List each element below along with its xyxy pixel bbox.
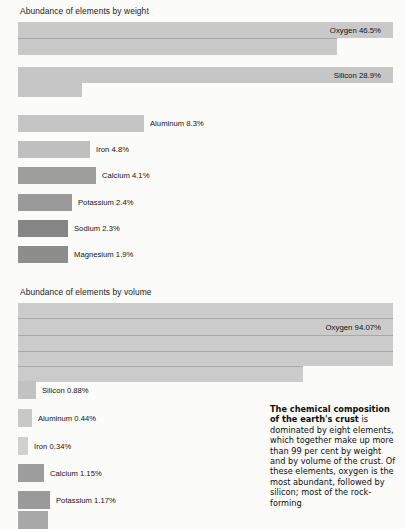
volume-bar-oxygen-row-1: Oxygen 94.07%	[18, 318, 393, 335]
weight-bar-calcium[interactable]: Calcium 4.1%	[18, 167, 149, 184]
volume-bar-calcium-label: Calcium 1.15%	[50, 469, 102, 478]
volume-bar-oxygen-row-2	[18, 335, 393, 351]
weight-bar-calcium-fill	[18, 167, 96, 184]
weight-bar-silicon[interactable]: Silicon 28.9%	[18, 67, 393, 97]
weight-bar-aluminum-fill	[18, 115, 144, 132]
volume-bar-aluminum-fill	[18, 409, 32, 427]
weight-bar-aluminum-label: Aluminum 8.3%	[150, 119, 204, 128]
volume-bar-clipped[interactable]	[18, 511, 48, 529]
weight-bar-oxygen-row-1	[18, 38, 337, 55]
volume-bar-oxygen-row-3	[18, 351, 393, 366]
volume-bar-silicon-label: Silicon 0.88%	[42, 386, 89, 395]
weight-bar-sodium-fill	[18, 220, 68, 237]
volume-bar-oxygen-row-4	[18, 366, 303, 382]
weight-bar-oxygen[interactable]: Oxygen 46.5%	[18, 22, 393, 55]
weight-bar-silicon-label: Silicon 28.9%	[334, 71, 381, 80]
weight-bar-silicon-row-1	[18, 83, 82, 97]
weight-bar-aluminum[interactable]: Aluminum 8.3%	[18, 115, 204, 132]
volume-bar-silicon-fill	[18, 381, 36, 399]
volume-bar-iron-fill	[18, 437, 28, 455]
weight-bar-calcium-label: Calcium 4.1%	[102, 171, 149, 180]
caption-paragraph: The chemical composition of the earth's …	[270, 404, 396, 508]
weight-bar-sodium[interactable]: Sodium 2.3%	[18, 220, 120, 237]
weight-bar-magnesium[interactable]: Magnesium 1.9%	[18, 246, 133, 263]
volume-chart-title: Abundance of elements by volume	[20, 287, 152, 297]
volume-bar-calcium[interactable]: Calcium 1.15%	[18, 464, 102, 482]
volume-bar-calcium-fill	[18, 464, 44, 482]
weight-bar-iron[interactable]: Iron 4.8%	[18, 141, 129, 158]
weight-bar-sodium-label: Sodium 2.3%	[74, 224, 120, 233]
weight-bar-iron-label: Iron 4.8%	[96, 145, 129, 154]
weight-bar-oxygen-label: Oxygen 46.5%	[330, 26, 381, 35]
weight-bar-magnesium-fill	[18, 246, 68, 263]
weight-bar-magnesium-label: Magnesium 1.9%	[74, 250, 133, 259]
volume-bar-clipped-fill	[18, 511, 48, 529]
caption-lead: The chemical composition of the earth's …	[270, 404, 390, 424]
weight-bar-potassium[interactable]: Potassium 2.4%	[18, 194, 134, 211]
volume-bar-oxygen-row-0	[18, 303, 393, 318]
volume-bar-iron[interactable]: Iron 0.34%	[18, 437, 71, 455]
weight-chart-title: Abundance of elements by weight	[20, 6, 149, 16]
weight-bar-potassium-fill	[18, 194, 72, 211]
volume-bar-silicon[interactable]: Silicon 0.88%	[18, 381, 89, 399]
volume-bar-aluminum-label: Aluminum 0.44%	[38, 414, 96, 423]
weight-bar-potassium-label: Potassium 2.4%	[78, 198, 134, 207]
volume-bar-aluminum[interactable]: Aluminum 0.44%	[18, 409, 96, 427]
volume-bar-iron-label: Iron 0.34%	[34, 442, 71, 451]
volume-bar-potassium[interactable]: Potassium 1.17%	[18, 491, 116, 509]
volume-bar-oxygen-label: Oxygen 94.07%	[326, 323, 381, 332]
volume-bar-oxygen[interactable]: Oxygen 94.07%	[18, 303, 393, 382]
volume-bar-potassium-fill	[18, 491, 50, 509]
caption-rest: is dominated by eight elements, which to…	[270, 414, 395, 507]
weight-bar-oxygen-row-0: Oxygen 46.5%	[18, 22, 393, 38]
volume-bar-potassium-label: Potassium 1.17%	[56, 496, 116, 505]
weight-bar-iron-fill	[18, 141, 90, 158]
weight-bar-silicon-row-0: Silicon 28.9%	[18, 67, 393, 83]
